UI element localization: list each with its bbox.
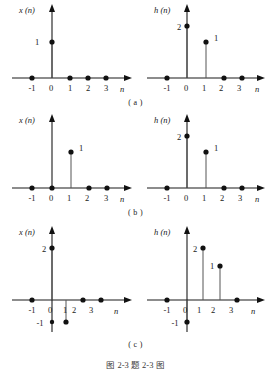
xtick-1: 1: [67, 193, 71, 203]
ytick-2: 2: [42, 244, 46, 254]
datapoint-n2: [86, 185, 91, 190]
x-axis-name: n: [255, 84, 259, 94]
y-axis-arrow: [184, 4, 190, 12]
datapoint-nm1: [164, 75, 169, 80]
ytick-2: 2: [177, 22, 181, 32]
xtick-neg1: -1: [163, 83, 170, 93]
x-axis-arrow: [257, 185, 265, 191]
datapoint-n1: [203, 149, 208, 154]
x-axis-arrow: [257, 297, 265, 303]
datapoint-n3: [239, 75, 244, 80]
datapoint-n2: [85, 75, 90, 80]
x-axis-name: n: [120, 194, 124, 204]
row-caption-b: ( b ): [0, 208, 271, 217]
datapoint-n0: [184, 319, 189, 324]
xtick-3: 3: [104, 83, 108, 93]
xtick-1: 1: [202, 193, 206, 203]
datapoint-n0: [49, 185, 54, 190]
figure-container: x (n) 1 -1 0 1 2 3 n: [0, 0, 271, 370]
datapoint-nm1: [29, 75, 34, 80]
value-label-1: 1: [214, 143, 218, 153]
datapoint-n0: [49, 39, 54, 44]
plot-c-x: x (n) 2 -1 -1 0 1 2 3 n: [2, 222, 136, 347]
xtick-2: 2: [219, 83, 223, 93]
xtick-1: 1: [202, 83, 206, 93]
y-axis-label: x (n): [18, 227, 35, 237]
datapoint-nm1: [29, 185, 34, 190]
plot-b-x: x (n) 1 -1 0 1 2 3 n: [2, 110, 136, 210]
y-axis-arrow: [184, 114, 190, 122]
value-label-2: 2: [193, 244, 197, 254]
y-axis-label: h (n): [154, 5, 170, 15]
datapoint-n3: [239, 185, 244, 190]
xtick-0: 0: [184, 193, 188, 203]
datapoint-n2: [80, 297, 85, 302]
xtick-3: 3: [238, 193, 242, 203]
xtick-0: 0: [184, 83, 188, 93]
plot-b-h: h (n) 2 1 -1 0 1 2 3 n: [137, 110, 271, 210]
plot-a-h: h (n) 2 1 -1 0 1 2 3 n: [137, 0, 271, 100]
y-axis-label: h (n): [154, 227, 170, 237]
datapoint-n1: [67, 75, 72, 80]
y-axis-arrow: [49, 4, 55, 12]
x-axis-name: n: [251, 306, 255, 316]
y-axis-label: x (n): [18, 5, 35, 15]
ytick-2: 2: [177, 132, 181, 142]
xtick-2: 2: [85, 193, 89, 203]
xtick-neg1: -1: [28, 305, 35, 315]
xtick-1: 1: [63, 305, 67, 315]
plot-c-h: h (n) 2 1 -1 -1 0 1 2 3: [137, 222, 271, 347]
xtick-2: 2: [220, 193, 224, 203]
ytick-neg1: -1: [171, 318, 178, 328]
datapoint-n0: [49, 245, 54, 250]
value-label-1: 1: [214, 33, 218, 43]
datapoint-nm1: [29, 297, 34, 302]
row-caption-c: ( c ): [0, 340, 271, 349]
xtick-0: 0: [48, 305, 52, 315]
xtick-1: 1: [197, 305, 201, 315]
ytick-neg1: -1: [36, 318, 43, 328]
xtick-neg1: -1: [163, 305, 170, 315]
datapoint-n0: [184, 133, 189, 138]
datapoint-n2: [221, 75, 226, 80]
row-caption-a: ( a ): [0, 98, 271, 107]
datapoint-n3: [234, 297, 239, 302]
xtick-neg1: -1: [163, 193, 170, 203]
xtick-2: 2: [211, 305, 215, 315]
datapoint-n3: [103, 75, 108, 80]
value-label-1: 1: [79, 143, 83, 153]
xtick-1: 1: [68, 83, 72, 93]
x-axis-arrow: [257, 75, 265, 81]
y-axis-arrow: [49, 114, 55, 122]
xtick-3: 3: [89, 305, 93, 315]
datapoint-n0: [184, 23, 189, 28]
xtick-0: 0: [49, 83, 53, 93]
xtick-0: 0: [49, 193, 53, 203]
xtick-3: 3: [237, 83, 241, 93]
y-axis-label: h (n): [154, 115, 170, 125]
y-axis-arrow: [49, 226, 55, 234]
x-axis-arrow: [124, 75, 132, 81]
datapoint-n1: [63, 319, 68, 324]
xtick-0: 0: [183, 305, 187, 315]
figure-caption: 图 2-3 题 2-3 图: [0, 358, 271, 370]
xtick-neg1: -1: [28, 193, 35, 203]
xtick-3: 3: [104, 193, 108, 203]
y-axis-arrow: [184, 226, 190, 234]
xtick-2: 2: [86, 83, 90, 93]
datapoint-n1: [203, 39, 208, 44]
datapoint-nm1: [164, 185, 169, 190]
datapoint-n3: [104, 185, 109, 190]
value-label-1: 1: [35, 37, 39, 47]
xtick-3: 3: [229, 305, 233, 315]
x-axis-arrow: [124, 297, 132, 303]
xtick-neg1: -1: [28, 83, 35, 93]
x-axis-name: n: [120, 84, 124, 94]
ytick-dot-neg1: [50, 320, 54, 324]
datapoint-n1: [68, 149, 73, 154]
datapoint-n2: [221, 185, 226, 190]
plot-a-x: x (n) 1 -1 0 1 2 3 n: [2, 0, 136, 100]
datapoint-nm1: [164, 297, 169, 302]
y-axis-label: x (n): [18, 115, 35, 125]
xtick-2: 2: [72, 305, 76, 315]
